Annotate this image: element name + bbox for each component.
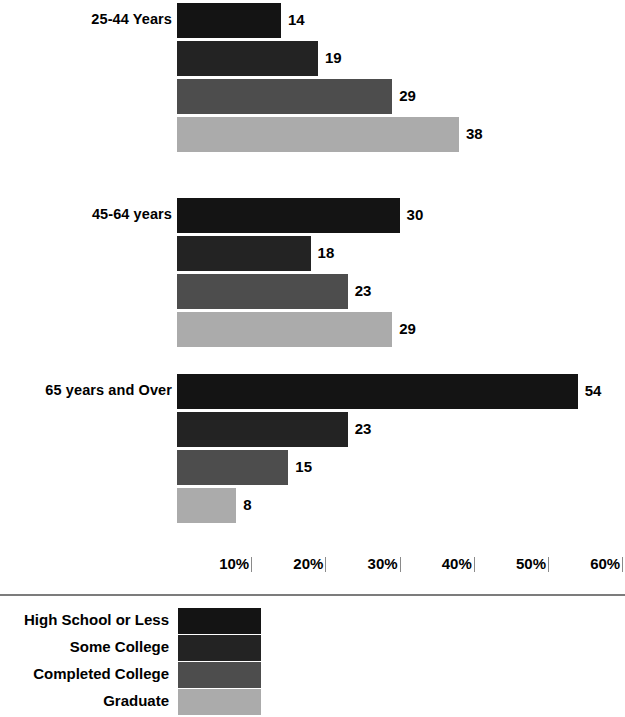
legend-item[interactable]: Completed College (0, 662, 625, 688)
bar[interactable] (177, 198, 400, 233)
bar-row: 18 (177, 236, 311, 271)
bar[interactable] (177, 374, 578, 409)
bar-row: 38 (177, 117, 459, 152)
group-label: 65 years and Over (45, 383, 172, 398)
bar-value-label: 54 (585, 383, 602, 398)
legend-item-label: High School or Less (24, 612, 169, 627)
bar-value-label: 29 (399, 88, 416, 103)
group-label: 25-44 Years (91, 12, 172, 27)
x-axis-tick-label: 30% (368, 556, 398, 571)
bar-value-label: 15 (295, 459, 312, 474)
bar-row: 30 (177, 198, 400, 233)
x-axis-tick-mark (474, 557, 475, 572)
x-axis: 10%20%30%40%50%60% (0, 556, 625, 596)
bar-row: 29 (177, 312, 392, 347)
bar[interactable] (177, 412, 348, 447)
legend-item[interactable]: Some College (0, 635, 625, 661)
group-label: 45-64 years (92, 207, 172, 222)
bar-value-label: 30 (407, 207, 424, 222)
bar-row: 19 (177, 41, 318, 76)
x-axis-tick-mark (548, 557, 549, 572)
bar-row: 23 (177, 412, 348, 447)
bar[interactable] (177, 236, 311, 271)
bar[interactable] (177, 312, 392, 347)
bar-chart: 25-44 Years1419293845-64 years3018232965… (0, 0, 625, 717)
bar-row: 8 (177, 488, 236, 523)
x-axis-tick-label: 60% (590, 556, 620, 571)
bar-value-label: 23 (355, 283, 372, 298)
bar-value-label: 14 (288, 12, 305, 27)
bar-value-label: 19 (325, 50, 342, 65)
bar-group: 65 years and Over5423158 (0, 374, 625, 523)
legend-item-label: Some College (70, 639, 169, 654)
bar-value-label: 38 (466, 126, 483, 141)
bar-row: 23 (177, 274, 348, 309)
x-axis-tick-mark (251, 557, 252, 572)
legend-color-swatch (178, 662, 261, 688)
legend-color-swatch (178, 689, 261, 715)
x-axis-tick-mark (622, 557, 623, 572)
x-axis-tick-label: 40% (442, 556, 472, 571)
bar-value-label: 23 (355, 421, 372, 436)
legend-item-label: Graduate (103, 693, 169, 708)
bar[interactable] (177, 41, 318, 76)
x-axis-tick-label: 20% (293, 556, 323, 571)
bar[interactable] (177, 488, 236, 523)
bar-row: 15 (177, 450, 288, 485)
bar-row: 54 (177, 374, 578, 409)
x-axis-tick-mark (400, 557, 401, 572)
bar[interactable] (177, 450, 288, 485)
x-axis-tick-label: 10% (219, 556, 249, 571)
bar-group: 45-64 years30182329 (0, 198, 625, 347)
legend-item[interactable]: Graduate (0, 689, 625, 715)
legend-color-swatch (178, 608, 261, 634)
bar[interactable] (177, 3, 281, 38)
plot-area: 25-44 Years1419293845-64 years3018232965… (0, 0, 625, 560)
legend-item[interactable]: High School or Less (0, 608, 625, 634)
bar-row: 29 (177, 79, 392, 114)
bar-row: 14 (177, 3, 281, 38)
legend-color-swatch (178, 635, 261, 661)
bar-group: 25-44 Years14192938 (0, 3, 625, 152)
axis-divider-rule (0, 594, 625, 596)
bar[interactable] (177, 274, 348, 309)
legend-item-label: Completed College (33, 666, 169, 681)
x-axis-tick-label: 50% (516, 556, 546, 571)
chart-legend: High School or LessSome CollegeCompleted… (0, 608, 625, 717)
bar-value-label: 18 (318, 245, 335, 260)
bar-value-label: 8 (243, 497, 251, 512)
bar-value-label: 29 (399, 321, 416, 336)
bar[interactable] (177, 117, 459, 152)
x-axis-tick-mark (325, 557, 326, 572)
bar[interactable] (177, 79, 392, 114)
